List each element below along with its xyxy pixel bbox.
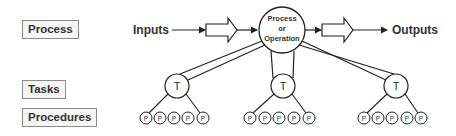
svg-text:P: P <box>362 115 366 122</box>
svg-text:P: P <box>390 115 394 122</box>
svg-text:P: P <box>376 115 380 122</box>
input-block-arrow-icon <box>206 18 237 42</box>
process-hierarchy-diagram: Inputs Process or Operation Outputs T PP… <box>0 0 456 136</box>
task-group-3: T PPPPP <box>358 74 427 124</box>
svg-text:P: P <box>201 115 205 122</box>
svg-text:T: T <box>280 80 287 92</box>
svg-text:P: P <box>144 115 148 122</box>
svg-text:P: P <box>292 115 296 122</box>
svg-text:P: P <box>158 115 162 122</box>
svg-text:P: P <box>405 115 409 122</box>
task-group-1: T PPPPP <box>140 74 209 124</box>
svg-text:T: T <box>393 80 400 92</box>
svg-text:P: P <box>186 115 190 122</box>
svg-text:T: T <box>174 80 181 92</box>
outputs-label: Outputs <box>392 23 438 37</box>
inputs-label: Inputs <box>133 23 169 37</box>
output-block-arrow-icon <box>322 18 353 42</box>
svg-text:P: P <box>307 115 311 122</box>
center-text-process: Process <box>267 14 296 23</box>
svg-text:P: P <box>263 115 267 122</box>
svg-text:P: P <box>172 115 176 122</box>
task-group-2: T PPPPP <box>244 74 315 124</box>
center-text-operation: Operation <box>264 34 300 43</box>
svg-text:P: P <box>277 115 281 122</box>
svg-text:P: P <box>419 115 423 122</box>
svg-text:P: P <box>248 115 252 122</box>
center-text-or: or <box>278 24 286 33</box>
